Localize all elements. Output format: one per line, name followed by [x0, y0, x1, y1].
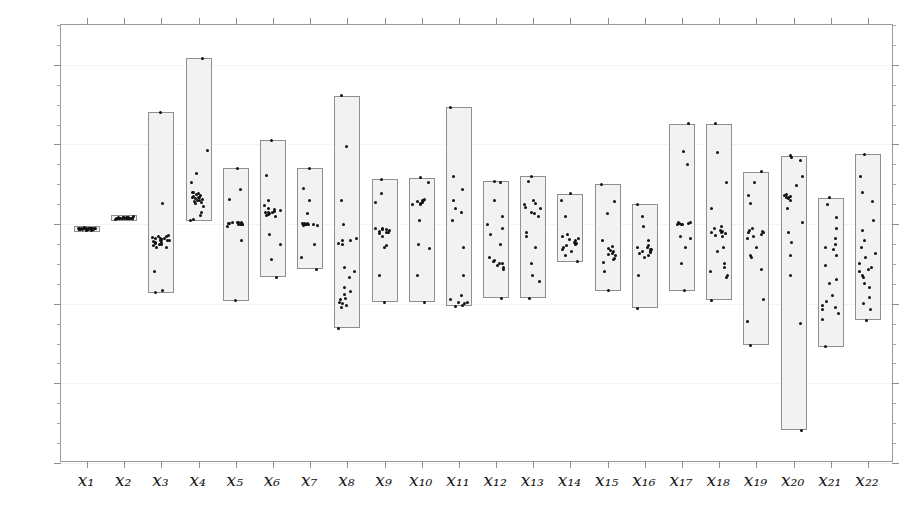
- chart-figure: 0.40.20.0-0.2-0.4-0.6 x₁x₂x₃x₄x₅x₆x₇x₈x₉…: [0, 0, 913, 515]
- scatter-point: [647, 239, 650, 242]
- scatter-point: [821, 318, 824, 321]
- scatter-point: [302, 187, 305, 190]
- scatter-point: [234, 299, 237, 302]
- x-tick-top: [199, 18, 200, 25]
- x-axis-tick-label-x19: x₁₉: [744, 470, 767, 490]
- scatter-point: [265, 174, 268, 177]
- scatter-point: [454, 207, 457, 210]
- x-tick: [310, 461, 311, 468]
- scatter-point: [155, 246, 158, 249]
- y-tick-minor-right: [892, 125, 896, 126]
- scatter-point: [499, 243, 502, 246]
- scatter-point: [268, 233, 271, 236]
- scatter-point: [159, 111, 162, 114]
- range-box-x19: [743, 172, 769, 345]
- x-axis-tick-label-x11: x₁₁: [446, 470, 469, 490]
- x-tick: [608, 461, 609, 468]
- scatter-point: [870, 266, 873, 269]
- x-tick: [161, 461, 162, 468]
- scatter-point: [381, 228, 384, 231]
- y-tick-minor: [57, 244, 61, 245]
- scatter-point: [493, 259, 496, 262]
- scatter-point: [865, 319, 868, 322]
- scatter-point: [524, 206, 527, 209]
- y-tick-minor: [57, 324, 61, 325]
- scatter-point: [834, 237, 837, 240]
- y-tick-minor-right: [892, 164, 896, 165]
- x-tick-top: [570, 18, 571, 25]
- scatter-point: [749, 344, 752, 347]
- y-tick-minor: [57, 344, 61, 345]
- y-tick-minor: [57, 164, 61, 165]
- scatter-point: [374, 201, 377, 204]
- scatter-point: [724, 232, 727, 235]
- y-tick-minor: [57, 85, 61, 86]
- scatter-point: [194, 202, 197, 205]
- scatter-point: [710, 207, 713, 210]
- scatter-point: [534, 202, 537, 205]
- x-tick: [831, 461, 832, 468]
- scatter-point: [863, 239, 866, 242]
- scatter-point: [452, 175, 455, 178]
- scatter-point: [720, 225, 723, 228]
- x-axis-tick-label-x2: x₂: [115, 470, 131, 490]
- scatter-point: [198, 196, 201, 199]
- scatter-point: [337, 242, 340, 245]
- y-tick-major-right: [892, 463, 899, 464]
- scatter-point: [308, 199, 311, 202]
- x-tick: [273, 461, 274, 468]
- y-tick-major-right: [892, 224, 899, 225]
- scatter-point: [501, 227, 504, 230]
- x-tick-top: [794, 18, 795, 25]
- y-tick-minor-right: [892, 264, 896, 265]
- y-tick-minor-right: [892, 423, 896, 424]
- y-tick-minor: [57, 423, 61, 424]
- y-tick-minor: [57, 25, 61, 26]
- scatter-point: [154, 291, 157, 294]
- x-tick-top: [868, 18, 869, 25]
- y-tick-minor: [57, 443, 61, 444]
- x-axis-tick-label-x10: x₁₀: [409, 470, 432, 490]
- scatter-point: [824, 345, 827, 348]
- scatter-point: [452, 199, 455, 202]
- x-tick: [533, 461, 534, 468]
- x-tick: [422, 461, 423, 468]
- x-tick-top: [422, 18, 423, 25]
- y-tick-major-right: [892, 65, 899, 66]
- scatter-point: [166, 239, 169, 242]
- x-tick: [868, 461, 869, 468]
- x-tick-top: [645, 18, 646, 25]
- scatter-point: [636, 203, 639, 206]
- y-tick-minor: [57, 403, 61, 404]
- x-tick-top: [756, 18, 757, 25]
- scatter-point: [859, 175, 862, 178]
- y-tick-major-right: [892, 383, 899, 384]
- scatter-point: [687, 122, 690, 125]
- x-tick: [385, 461, 386, 468]
- scatter-point: [834, 243, 837, 246]
- x-tick: [756, 461, 757, 468]
- scatter-point: [189, 219, 192, 222]
- scatter-point: [315, 268, 318, 271]
- scatter-point: [308, 167, 311, 170]
- x-axis-tick-label-x13: x₁₃: [521, 470, 544, 490]
- scatter-point: [273, 208, 276, 211]
- x-tick: [459, 461, 460, 468]
- x-tick: [87, 461, 88, 468]
- scatter-point: [486, 223, 489, 226]
- x-tick: [682, 461, 683, 468]
- scatter-point: [530, 175, 533, 178]
- scatter-point: [607, 289, 610, 292]
- scatter-point: [679, 235, 682, 238]
- y-tick-minor-right: [892, 284, 896, 285]
- scatter-point: [380, 192, 383, 195]
- scatter-point: [411, 203, 414, 206]
- scatter-point: [454, 305, 457, 308]
- range-box-x5: [223, 168, 249, 300]
- x-tick-top: [385, 18, 386, 25]
- scatter-point: [787, 231, 790, 234]
- scatter-point: [863, 153, 866, 156]
- scatter-point: [341, 302, 344, 305]
- scatter-point: [602, 261, 605, 264]
- scatter-point: [790, 241, 793, 244]
